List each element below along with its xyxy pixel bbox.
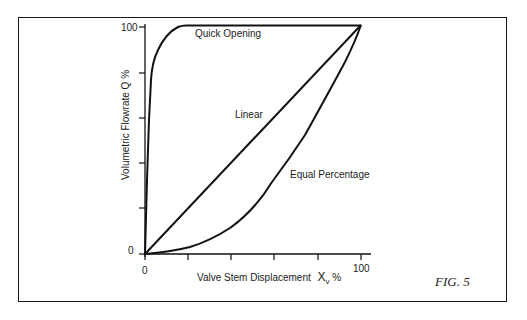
y-tick-label-100: 100 bbox=[121, 22, 138, 33]
x-axis-title-text: Valve Stem Displacement bbox=[197, 272, 311, 283]
x-ticks bbox=[145, 254, 361, 260]
curve-linear bbox=[145, 25, 361, 254]
figure-label: FIG. 5 bbox=[435, 274, 470, 290]
x-tick-label-100: 100 bbox=[353, 263, 370, 274]
x-axis-symbol: X bbox=[318, 270, 326, 284]
y-ticks bbox=[139, 27, 145, 254]
x-tick-label-0: 0 bbox=[142, 265, 148, 276]
annotation-linear: Linear bbox=[235, 109, 263, 120]
y-tick-label-0: 0 bbox=[128, 245, 134, 256]
x-axis-title: Valve Stem Displacement Xv % bbox=[197, 270, 341, 286]
annotation-equal-percentage: Equal Percentage bbox=[290, 169, 370, 180]
y-axis-title: Volumetric Flowrate Q % bbox=[120, 70, 131, 180]
annotation-quick-opening: Quick Opening bbox=[195, 28, 261, 39]
x-axis-subscript: v bbox=[326, 277, 330, 286]
x-axis-unit: % bbox=[332, 272, 341, 283]
